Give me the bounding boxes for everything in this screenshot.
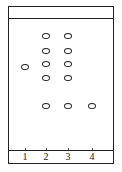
origin-mark-4	[92, 148, 93, 150]
spot-lane-3-1	[64, 33, 72, 39]
spot-lane-3-5	[64, 103, 72, 109]
spot-lane-1-1	[21, 64, 29, 70]
tlc-plate	[8, 6, 114, 164]
origin-mark-3	[68, 148, 69, 150]
lane-label-1: 1	[20, 151, 30, 163]
origin-mark-2	[46, 148, 47, 150]
spot-lane-2-1	[42, 33, 50, 39]
lane-label-3: 3	[63, 151, 73, 163]
spot-lane-3-3	[64, 61, 72, 67]
spot-lane-2-3	[42, 61, 50, 67]
lane-label-4: 4	[87, 151, 97, 163]
origin-mark-1	[25, 148, 26, 150]
spot-lane-3-4	[64, 75, 72, 81]
lane-label-2: 2	[41, 151, 51, 163]
spot-lane-4-1	[88, 103, 96, 109]
solvent-front-line	[8, 18, 114, 19]
spot-lane-2-5	[42, 103, 50, 109]
spot-lane-2-2	[42, 48, 50, 54]
spot-lane-3-2	[64, 48, 72, 54]
spot-lane-2-4	[42, 75, 50, 81]
